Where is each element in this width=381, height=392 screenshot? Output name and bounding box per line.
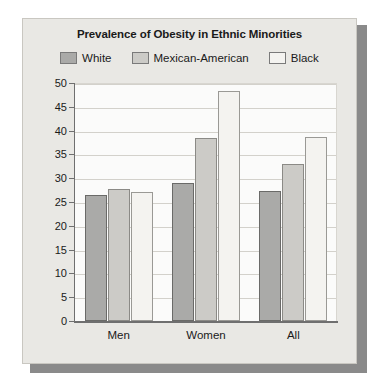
y-axis-tick <box>69 273 75 274</box>
y-axis-tick-label: 40 <box>23 125 67 137</box>
gridline <box>75 108 336 109</box>
y-axis-tick-label: 5 <box>23 291 67 303</box>
x-axis-label-women: Women <box>186 329 225 341</box>
y-axis-tick-label: 15 <box>23 244 67 256</box>
y-axis-tick-label: 25 <box>23 196 67 208</box>
chart-title: Prevalence of Obesity in Ethnic Minoriti… <box>23 28 356 40</box>
legend-swatch-icon <box>132 52 149 64</box>
y-axis-labels: 05101520253035404550 <box>23 19 67 363</box>
x-axis-line <box>74 321 338 323</box>
gridline <box>75 84 336 85</box>
x-axis-label-men: Men <box>107 329 129 341</box>
y-axis-tick <box>69 83 75 84</box>
legend-swatch-icon <box>269 52 286 64</box>
y-axis-tick <box>69 202 75 203</box>
bar-all-black <box>305 137 327 321</box>
y-axis-tick <box>69 321 75 322</box>
y-axis-tick-label: 45 <box>23 101 67 113</box>
y-axis-tick <box>69 178 75 179</box>
chart-figure: Prevalence of Obesity in Ethnic Minoriti… <box>22 18 359 366</box>
bar-men-mexican-american <box>108 189 130 321</box>
legend-label: Black <box>291 52 319 64</box>
y-axis-tick <box>69 131 75 132</box>
y-axis-tick <box>69 250 75 251</box>
legend-label: White <box>82 52 111 64</box>
plot-area <box>75 83 337 321</box>
legend-item-mexican-american: Mexican-American <box>132 52 249 64</box>
bar-men-black <box>131 192 153 321</box>
y-axis-tick-label: 35 <box>23 148 67 160</box>
y-axis-tick-label: 20 <box>23 220 67 232</box>
y-axis-tick-label: 0 <box>23 315 67 327</box>
figure-panel: Prevalence of Obesity in Ethnic Minoriti… <box>22 18 357 364</box>
y-axis-tick <box>69 226 75 227</box>
y-axis-tick-label: 50 <box>23 77 67 89</box>
bar-all-mexican-american <box>282 164 304 321</box>
bar-men-white <box>85 195 107 321</box>
bar-women-mexican-american <box>195 138 217 321</box>
y-axis-tick-label: 30 <box>23 172 67 184</box>
bar-women-black <box>218 91 240 321</box>
chart-legend: WhiteMexican-AmericanBlack <box>23 52 356 64</box>
bar-women-white <box>172 183 194 321</box>
y-axis-tick <box>69 107 75 108</box>
legend-item-white: White <box>60 52 111 64</box>
legend-item-black: Black <box>269 52 319 64</box>
x-axis-label-all: All <box>287 329 300 341</box>
y-axis-tick <box>69 297 75 298</box>
legend-label: Mexican-American <box>154 52 249 64</box>
y-axis-tick <box>69 154 75 155</box>
y-axis-tick-label: 10 <box>23 267 67 279</box>
gridline <box>75 132 336 133</box>
bar-all-white <box>259 191 281 321</box>
